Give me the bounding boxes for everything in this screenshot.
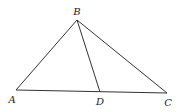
segment-ac [16, 90, 167, 93]
label-d: D [95, 96, 104, 107]
label-c: C [164, 97, 172, 108]
label-b: B [72, 6, 80, 17]
segment-ab [16, 20, 77, 90]
triangle-diagram: A B C D [0, 0, 179, 112]
segment-bc [77, 20, 167, 93]
segment-bd [77, 20, 100, 92]
label-a: A [7, 94, 15, 105]
